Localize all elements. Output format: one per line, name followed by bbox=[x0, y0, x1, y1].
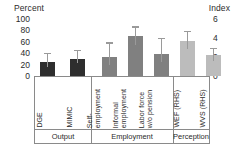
category-label-informal-employment: Informal employment bbox=[112, 80, 127, 128]
error-cap-high-dge bbox=[44, 53, 51, 54]
category-label-wef: WEF (RHS) bbox=[173, 80, 181, 128]
group-rule-employment bbox=[91, 129, 173, 130]
error-cap-high-self-employment bbox=[106, 42, 113, 43]
error-bar-informal-employment bbox=[135, 28, 136, 45]
category-label-self-employment: Self- employment bbox=[86, 80, 101, 128]
error-bar-labor-force-wo-pension bbox=[161, 39, 162, 62]
left-axis-caption: Percent bbox=[14, 3, 44, 13]
left-tick-80: 80 bbox=[4, 26, 30, 35]
group-rule-perception bbox=[173, 129, 209, 130]
group-rule-output bbox=[35, 129, 91, 130]
error-bar-wvs bbox=[213, 49, 214, 60]
error-bar-self-employment bbox=[109, 44, 110, 65]
category-label-wvs: WVS (RHS) bbox=[199, 80, 207, 128]
bar-chart: Percent Index 100 80 60 40 20 0 6 4 2 0 bbox=[0, 0, 233, 148]
group-name-perception: Perception bbox=[173, 132, 209, 141]
right-tick-4: 4 bbox=[213, 34, 233, 43]
plot-area bbox=[34, 19, 210, 76]
right-axis-caption: Index bbox=[209, 3, 230, 13]
error-cap-high-mimic bbox=[74, 50, 81, 51]
category-label-mimic: MIMIC bbox=[66, 80, 74, 128]
group-name-output: Output bbox=[35, 132, 91, 141]
right-tick-6: 6 bbox=[213, 15, 233, 24]
error-bar-dge bbox=[47, 54, 48, 67]
error-cap-high-wef bbox=[184, 31, 191, 32]
error-cap-high-wvs bbox=[210, 48, 217, 49]
error-cap-high-informal-employment bbox=[132, 26, 139, 27]
category-label-dge: DGE bbox=[36, 80, 44, 128]
error-cap-high-labor-force-wo-pension bbox=[158, 38, 165, 39]
left-tick-20: 20 bbox=[4, 61, 30, 70]
category-label-box: DGE MIMIC Self- employment Informal empl… bbox=[34, 76, 210, 144]
left-tick-0: 0 bbox=[4, 72, 30, 81]
error-bar-wef bbox=[187, 32, 188, 49]
error-bar-mimic bbox=[77, 51, 78, 64]
left-tick-40: 40 bbox=[4, 49, 30, 58]
category-label-labor-force-wo-pension: Labor force w/o pension bbox=[138, 80, 153, 128]
group-name-employment: Employment bbox=[91, 132, 173, 141]
left-tick-100: 100 bbox=[4, 15, 30, 24]
left-tick-60: 60 bbox=[4, 38, 30, 47]
